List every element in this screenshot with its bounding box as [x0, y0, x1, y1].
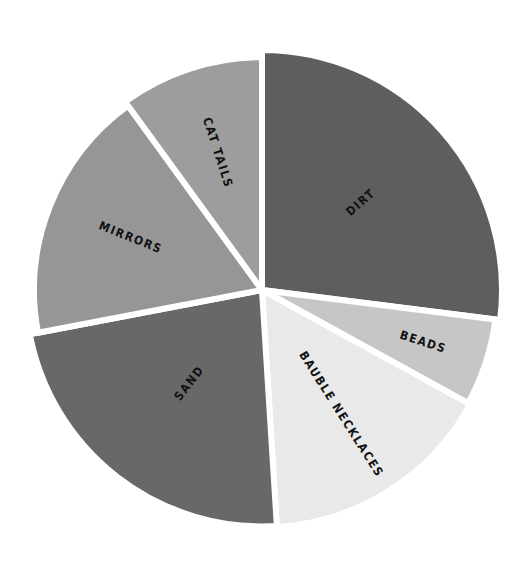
pie-slices: [30, 50, 502, 527]
pie-chart: DIRTBEADSBAUBLE NECKLACESSANDMIRRORSCAT …: [0, 0, 528, 562]
pie-slice-dirt: [262, 50, 502, 320]
